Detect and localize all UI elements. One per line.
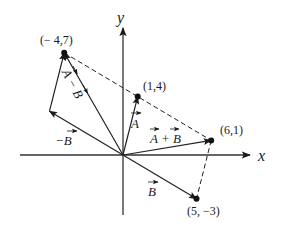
point-p1 xyxy=(61,50,67,56)
label-a-minus-b: A − B xyxy=(58,65,87,101)
vector-a-translated xyxy=(50,53,65,111)
label-a-text: A xyxy=(130,116,139,131)
label-a: A xyxy=(130,113,141,131)
point-label-p1: (− 4,7) xyxy=(40,33,73,47)
label-a-plus-b: A + B xyxy=(149,129,181,146)
dashed-p3-p4 xyxy=(197,140,212,198)
point-label-p2: (1,4) xyxy=(143,79,166,93)
vector-b xyxy=(123,155,197,199)
label-b: B xyxy=(148,182,158,199)
point-p3 xyxy=(208,137,214,143)
label-a-minus-b-text: A − B xyxy=(58,66,86,101)
point-p4 xyxy=(194,196,200,202)
point-p2 xyxy=(135,94,141,100)
x-axis-label: x xyxy=(257,147,265,164)
point-label-p3: (6,1) xyxy=(220,123,243,137)
vector-diagram: x y (− 4,7) (1,4) (6,1) (5, −3) A A + B … xyxy=(0,0,281,234)
label-neg-b: −B xyxy=(55,131,77,148)
label-neg-b-text: −B xyxy=(55,133,72,148)
label-a-plus-b-text: A + B xyxy=(149,131,181,146)
point-label-p4: (5, −3) xyxy=(187,204,220,218)
y-axis-label: y xyxy=(115,9,125,27)
label-b-text: B xyxy=(148,184,156,199)
